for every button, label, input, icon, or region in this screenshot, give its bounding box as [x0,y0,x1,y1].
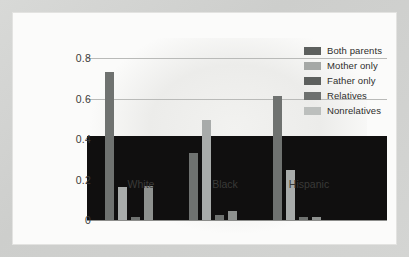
legend-swatch-icon [304,107,321,115]
bar [105,72,114,221]
x-axis-baseline [87,220,387,221]
bar [118,187,127,221]
legend-label: Mother only [327,60,378,71]
x-category-label: White [105,178,177,190]
legend-label: Father only [327,75,376,86]
chart-page: 00.20.40.60.8 WhiteBlackHispanic Both pa… [12,12,397,245]
y-tick-label: 0.2 [76,174,91,186]
y-tick-label: 0.4 [76,133,91,145]
legend-label: Relatives [327,90,367,101]
bar [144,186,153,221]
y-tick-label: 0.8 [76,52,91,64]
bar-group [105,59,177,221]
bar-group [189,59,261,221]
bar [273,96,282,221]
legend-item: Nonrelatives [304,105,382,116]
legend-item: Both parents [304,45,382,56]
legend-swatch-icon [304,77,321,85]
legend-swatch-icon [304,92,321,100]
legend-item: Father only [304,75,382,86]
legend-swatch-icon [304,62,321,70]
image-frame: 00.20.40.60.8 WhiteBlackHispanic Both pa… [0,0,409,257]
y-tick-label: 0.6 [76,93,91,105]
legend-item: Relatives [304,90,382,101]
x-category-label: Hispanic [273,178,345,190]
legend-label: Nonrelatives [327,105,381,116]
y-tick-label: 0 [85,214,91,226]
legend-swatch-icon [304,47,321,55]
legend-item: Mother only [304,60,382,71]
x-category-label: Black [189,178,261,190]
legend-label: Both parents [327,45,382,56]
bar [202,120,211,221]
chart-legend: Both parentsMother onlyFather onlyRelati… [304,45,382,116]
